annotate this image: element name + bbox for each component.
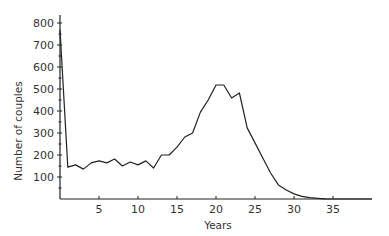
y-tick-label: 600 — [33, 61, 54, 74]
x-tick-label: 35 — [326, 203, 340, 216]
y-tick-label: 100 — [33, 171, 54, 184]
x-tick-label: 20 — [209, 203, 223, 216]
y-tick-label: 500 — [33, 83, 54, 96]
y-tick-label: 400 — [33, 105, 54, 118]
x-tick-label: 30 — [287, 203, 301, 216]
y-tick-label: 700 — [33, 39, 54, 52]
line-chart: 100200300400500600700800 5101520253035 Y… — [0, 0, 389, 236]
data-line — [60, 30, 372, 199]
x-axis-label: Years — [203, 219, 232, 231]
x-tick-label: 10 — [131, 203, 145, 216]
x-tick-label: 15 — [170, 203, 184, 216]
y-tick-label: 800 — [33, 17, 54, 30]
y-tick-label: 200 — [33, 149, 54, 162]
y-axis-label: Number of couples — [12, 81, 24, 180]
y-axis: 100200300400500600700800 — [33, 15, 62, 199]
x-tick-label: 25 — [248, 203, 262, 216]
y-tick-label: 300 — [33, 127, 54, 140]
x-tick-label: 5 — [96, 203, 103, 216]
